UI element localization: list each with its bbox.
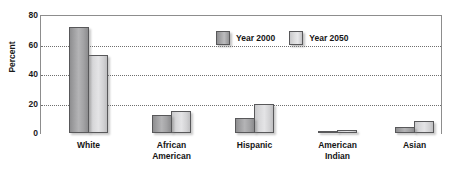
x-label-african-american-line2: American [124,151,219,162]
chart-legend: Year 2000 Year 2050 [216,31,348,45]
bar-asian-year-2050 [414,121,434,133]
x-axis-category-labels: White African American Hispanic American… [41,140,440,176]
x-label-white-line1: White [41,140,136,151]
y-tick-0: 0 [8,128,38,138]
x-label-african-american-line1: African [124,140,219,151]
bar-group-asian [367,15,452,133]
x-label-american-indian-line2: Indian [290,151,385,162]
x-label-asian-line1: Asian [367,140,452,151]
bar-group-white [41,15,136,133]
bar-african-american-year-2000 [152,115,172,133]
bar-asian-year-2000 [395,127,415,133]
legend-entry-year-2050: Year 2050 [289,31,348,45]
legend-label-year-2000: Year 2000 [236,33,275,43]
y-tick-20: 20 [8,99,38,109]
bar-chart: Percent 0 20 40 60 80 [0,0,452,179]
bar-hispanic-year-2050 [254,104,274,134]
y-tick-60: 60 [8,40,38,50]
x-label-hispanic: Hispanic [207,140,302,151]
x-label-white: White [41,140,136,151]
bar-american-indian-year-2050 [337,130,357,133]
bar-african-american-year-2050 [171,111,191,133]
x-label-hispanic-line1: Hispanic [207,140,302,151]
legend-swatch-year-2000-icon [216,31,230,45]
bar-group-african-american [124,15,219,133]
x-label-african-american: African American [124,140,219,162]
bar-hispanic-year-2000 [235,118,255,133]
legend-entry-year-2000: Year 2000 [216,31,275,45]
bar-white-year-2000 [69,27,89,133]
bar-white-year-2050 [88,55,108,133]
legend-label-year-2050: Year 2050 [309,33,348,43]
y-tick-80: 80 [8,10,38,20]
legend-swatch-year-2050-icon [289,31,303,45]
x-label-asian: Asian [367,140,452,151]
y-tick-40: 40 [8,69,38,79]
bar-american-indian-year-2000 [318,131,338,133]
